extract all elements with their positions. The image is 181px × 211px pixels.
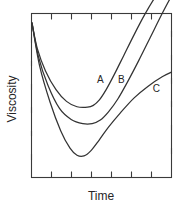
curve-label-b: B (118, 74, 125, 85)
curve-label-c: C (153, 83, 160, 94)
x-axis-title: Time (88, 189, 115, 203)
curve-b (32, 0, 172, 124)
y-axis-title: Viscosity (5, 75, 19, 122)
viscosity-time-figure: A B C Time Viscosity (0, 0, 181, 211)
top-axis-ticks (52, 14, 152, 20)
chart-canvas: A B C Time Viscosity (0, 0, 181, 211)
curve-label-a: A (97, 74, 104, 85)
bottom-axis-ticks (52, 172, 152, 178)
curve-c (32, 23, 172, 157)
